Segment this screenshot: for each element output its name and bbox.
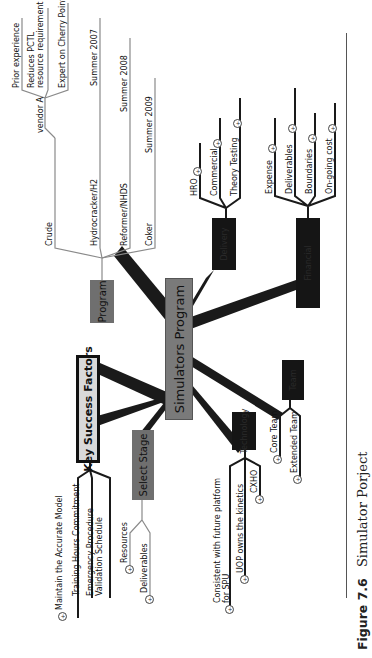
leaf-hro: HRO (190, 178, 199, 196)
leaf-uop-kinetics: UOP owns the kinetics (236, 484, 245, 573)
plus-circle-icon[interactable]: + (125, 565, 134, 574)
leaf-extended-team: Extended Team (290, 411, 299, 473)
node-select-stage[interactable]: Select Stage (132, 430, 154, 500)
leaf-crude: Crude (45, 222, 54, 246)
leaf-expense: Expense (265, 160, 274, 194)
node-delivery-label: Delivery (220, 227, 229, 260)
node-key-success-factors[interactable]: Key Success Factors (76, 355, 100, 463)
node-program-label: Program (97, 280, 108, 322)
caption-label: Figure 7.6 (355, 578, 370, 650)
central-node[interactable]: Simulators Program (165, 278, 193, 420)
leaf-consistent-platform: Consistent with future platform for SPU (213, 473, 231, 603)
plus-circle-icon[interactable]: + (255, 495, 264, 504)
leaf-theory-testing: Theory Testing (230, 138, 239, 196)
node-ksf-label: Key Success Factors (82, 346, 95, 472)
plus-circle-icon[interactable]: + (213, 139, 222, 148)
central-node-label: Simulators Program (172, 285, 187, 414)
caption-text: Simulator Porject (355, 452, 370, 568)
line-vendor (45, 98, 55, 138)
plus-circle-icon[interactable]: + (288, 124, 297, 133)
leaf-summer-2008: Summer 2008 (120, 55, 129, 112)
figure-caption: Figure 7.6 Simulator Porject (352, 452, 371, 650)
leaf-hydrocracker: Hydrocracker/H2 (90, 179, 99, 246)
leaf-commercial: Commercial (210, 148, 219, 196)
plus-circle-icon[interactable]: + (240, 575, 249, 584)
leaf-deliverables: Deliverables (285, 144, 294, 194)
node-financial-label: Financial (304, 245, 313, 280)
rotated-figure: Simulators Program Program Crude vendor … (0, 0, 372, 658)
node-delivery[interactable]: Delivery (212, 218, 236, 270)
leaf-expert-cherry-point: Expert on Cherry Point (58, 0, 67, 88)
caption-rule (346, 33, 347, 598)
leaf-emergency-procedure-text: Emergency Procedure Validation Schedule (86, 508, 104, 596)
leaf-training-hours: Training Hours Commitment (72, 484, 81, 596)
leaf-summer-2007: Summer 2007 (90, 29, 99, 86)
leaf-maintain-model: Maintain the Accurate Model (55, 495, 64, 610)
plus-circle-icon[interactable]: + (193, 167, 202, 176)
leaf-reformer: Reformer/NHDS (120, 183, 129, 246)
plus-circle-icon[interactable]: + (308, 134, 317, 143)
line-hydro (100, 18, 102, 258)
leaf-vendor-a: vendor A (36, 97, 45, 133)
leaf-consistent-platform-text: Consistent with future platform for SPU (213, 478, 231, 603)
leaf-ongoing-cost: On-going cost (325, 138, 334, 194)
leaf-reduces-pctl: Reduces PCTL resource requirement (27, 0, 45, 88)
node-select-stage-label: Select Stage (138, 434, 149, 497)
leaf-emergency-procedure: Emergency Procedure Validation Schedule (86, 486, 104, 596)
leaf-summer-2009: Summer 2009 (145, 96, 154, 153)
plus-circle-icon[interactable]: + (233, 119, 242, 128)
leaf-core-team: Core Team (270, 411, 279, 453)
node-team[interactable]: Team (282, 360, 304, 400)
spoke-financial (180, 280, 296, 333)
plus-circle-icon[interactable]: + (293, 475, 302, 484)
leaf-resources: Resources (120, 522, 129, 563)
plus-circle-icon[interactable]: + (268, 144, 277, 153)
leaf-coker: Coker (145, 223, 154, 246)
leaf-prior-experience: Prior experience (12, 23, 21, 88)
plus-circle-icon[interactable]: + (328, 124, 337, 133)
node-technology-label: Technology (240, 409, 249, 454)
spoke-team (186, 353, 283, 420)
node-financial[interactable]: Financial (296, 218, 320, 308)
leaf-select-deliverables: Deliverables (140, 543, 149, 593)
leaf-reduces-pctl-text: Reduces PCTL resource requirement (27, 1, 45, 88)
node-team-label: Team (289, 369, 298, 390)
plus-circle-icon[interactable]: + (273, 455, 282, 464)
plus-circle-icon[interactable]: + (58, 612, 67, 621)
node-technology[interactable]: Technology (232, 412, 256, 450)
plus-circle-icon[interactable]: + (225, 605, 234, 614)
leaf-cxho: CXHO (250, 470, 259, 493)
node-program[interactable]: Program (90, 280, 114, 323)
leaf-boundaries: Boundaries (305, 149, 314, 194)
plus-circle-icon[interactable]: + (145, 595, 154, 604)
